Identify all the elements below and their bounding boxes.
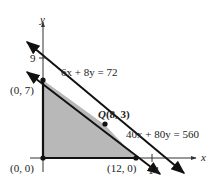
optimal-point-label: Q(8, 3) [98, 108, 130, 121]
vertex-0-7 [40, 77, 45, 82]
linear-programming-graph: y x 9 14 (0, 7) (0, 0) (12, 0) Q(8, 3) 6… [0, 0, 217, 185]
optimal-point-coords: (8, 3) [106, 108, 130, 121]
vertex-q-8-3 [102, 121, 107, 126]
y-axis-label: y [39, 13, 45, 25]
vertex-label-12-0: (12, 0) [107, 162, 137, 175]
vertex-label-0-0: (0, 0) [10, 162, 34, 175]
x-axis-label: x [200, 151, 206, 163]
vertex-0-0 [40, 155, 45, 160]
equation-label-6x-8y-72: 6x + 8y = 72 [61, 66, 117, 78]
equation-label-40x-80y-560: 40x + 80y = 560 [126, 128, 199, 140]
vertex-12-0 [133, 155, 138, 160]
vertex-label-0-7: (0, 7) [10, 84, 34, 97]
y-tick-label-9: 9 [30, 52, 36, 64]
optimal-point-name: Q [98, 108, 106, 120]
x-tick-label-14: 14 [148, 164, 160, 176]
